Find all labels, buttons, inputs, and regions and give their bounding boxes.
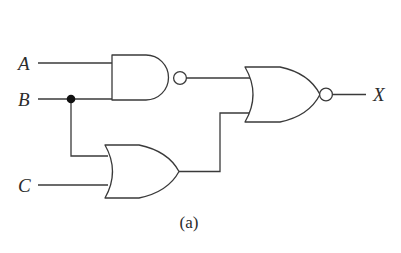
wire-b-branch: [71, 99, 108, 156]
nor-gate-body: [245, 67, 320, 122]
nor-gate-bubble-icon: [320, 88, 333, 101]
label-input-b: B: [18, 89, 30, 110]
nand-gate-body: [112, 55, 169, 100]
logic-circuit-figure: A B C X (a): [0, 0, 401, 253]
nand-gate-bubble-icon: [174, 72, 187, 85]
label-input-a: A: [16, 53, 30, 74]
label-input-c: C: [18, 175, 31, 196]
circuit-diagram-canvas: A B C X (a): [0, 0, 401, 253]
junction-dot-b: [67, 95, 76, 104]
figure-caption: (a): [180, 213, 199, 232]
or-gate-body: [105, 145, 179, 198]
wire-or-to-nor: [179, 113, 250, 172]
label-output-x: X: [372, 84, 386, 105]
